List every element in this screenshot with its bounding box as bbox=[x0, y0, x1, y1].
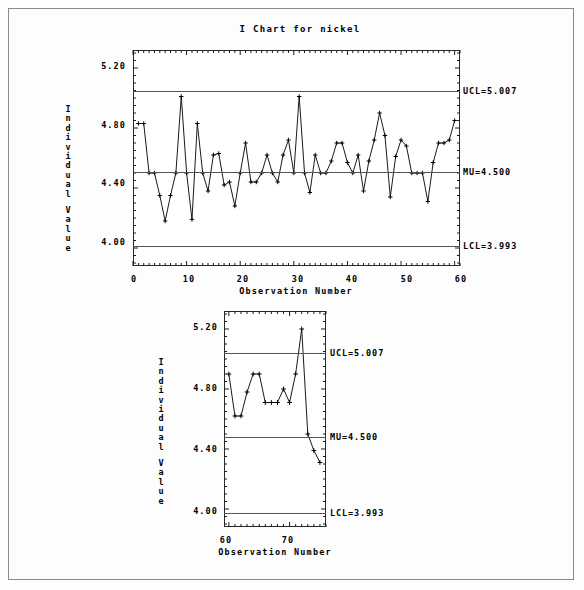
ucl-label-bottom: UCL=5.007 bbox=[330, 348, 384, 358]
x-tick-label: 60 bbox=[206, 535, 246, 545]
y-tick-label: 4.80 bbox=[180, 383, 218, 393]
mu-line-bottom bbox=[224, 437, 326, 438]
page-canvas: I Chart for nickel I n d i v i d u a l V… bbox=[0, 0, 584, 590]
lcl-label-bottom: LCL=3.993 bbox=[330, 508, 384, 518]
y-tick-label: 4.40 bbox=[180, 444, 218, 454]
plot-svg-bottom bbox=[224, 311, 326, 527]
y-axis-char: l bbox=[155, 443, 167, 452]
y-tick-label: 5.20 bbox=[180, 322, 218, 332]
y-axis-char: e bbox=[155, 497, 167, 506]
y-tick-label: 4.00 bbox=[180, 506, 218, 516]
i-chart-bottom: I n d i v i d u a l V a l u e 5.20 4.80 … bbox=[0, 0, 584, 590]
x-axis-title-bottom: Observation Number bbox=[155, 547, 395, 557]
mu-label-bottom: MU=4.500 bbox=[330, 432, 378, 442]
x-tick-label: 70 bbox=[268, 535, 308, 545]
lcl-line-bottom bbox=[224, 513, 326, 514]
y-axis-title-bottom: I n d i v i d u a l V a l u e bbox=[155, 358, 167, 506]
ucl-line-bottom bbox=[224, 353, 326, 354]
